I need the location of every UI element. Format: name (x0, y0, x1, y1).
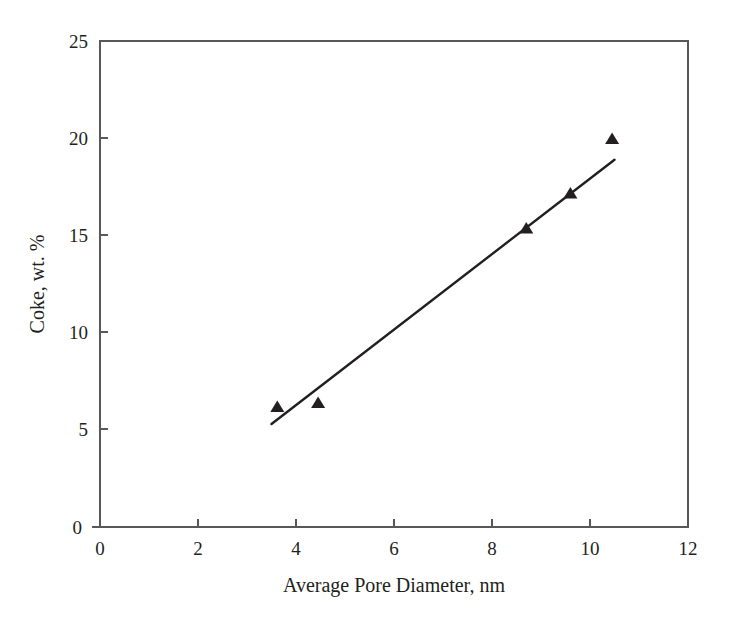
y-tick-label-10: 10 (69, 322, 88, 343)
data-point-marker (270, 400, 284, 412)
plot-border (100, 41, 688, 527)
y-tick-label-0: 0 (73, 517, 83, 538)
x-axis-tick-labels: 0 2 4 6 8 10 12 (95, 538, 697, 559)
data-point-marker (311, 397, 325, 409)
data-series-markers (270, 133, 619, 412)
y-tick-label-25: 25 (69, 31, 88, 52)
x-tick-label-10: 10 (581, 538, 600, 559)
x-tick-label-2: 2 (193, 538, 203, 559)
y-tick-label-15: 15 (69, 225, 88, 246)
y-axis-tick-labels: 25 20 15 10 5 0 (69, 31, 88, 538)
scatter-plot-svg: 25 20 15 10 5 0 0 2 4 6 8 10 12 (0, 0, 730, 624)
trend-line (272, 160, 615, 424)
x-tick-label-12: 12 (679, 538, 698, 559)
chart-figure: 25 20 15 10 5 0 0 2 4 6 8 10 12 (0, 0, 730, 624)
data-point-marker (605, 133, 619, 145)
x-axis-title: Average Pore Diameter, nm (283, 574, 506, 597)
x-tick-label-4: 4 (291, 538, 301, 559)
x-tick-label-8: 8 (487, 538, 497, 559)
plot-frame (100, 41, 688, 527)
y-tick-label-5: 5 (79, 419, 89, 440)
y-axis-title: Coke, wt. % (26, 235, 48, 334)
x-tick-label-0: 0 (95, 538, 105, 559)
x-axis-ticks (100, 519, 688, 527)
x-tick-label-6: 6 (389, 538, 399, 559)
y-tick-label-20: 20 (69, 128, 88, 149)
